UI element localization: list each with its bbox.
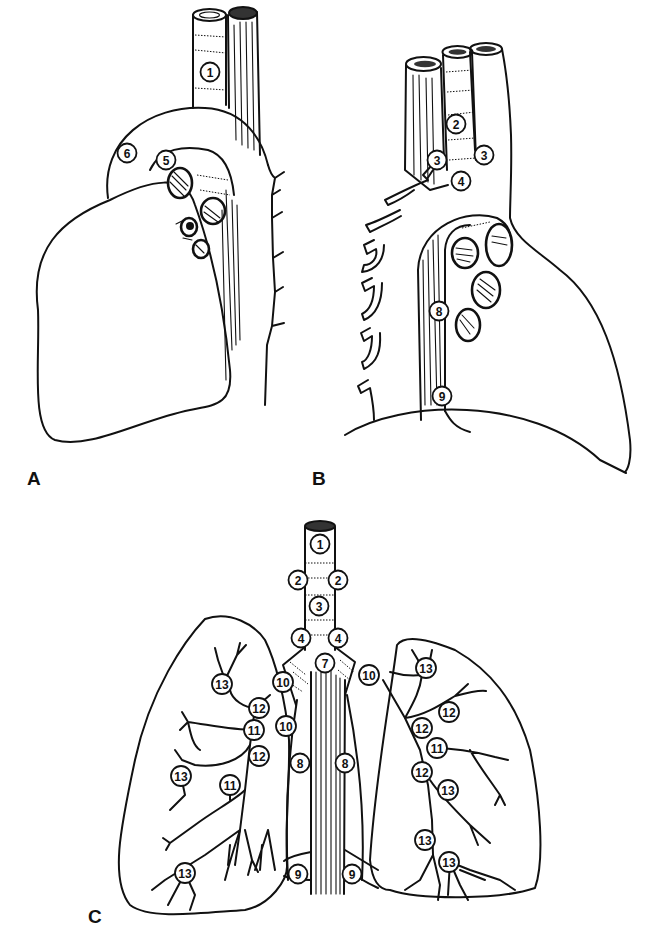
label-number: 13	[442, 856, 456, 870]
node-station-label-c-13: 13	[438, 780, 458, 800]
label-number: 13	[418, 834, 432, 848]
panel-b-drawing	[345, 43, 630, 473]
label-number: 3	[316, 600, 323, 614]
label-number: 6	[124, 147, 131, 161]
node-station-label-c-13: 13	[212, 674, 232, 694]
node-station-label-c-13: 13	[439, 852, 459, 872]
label-number: 4	[458, 175, 465, 189]
label-number: 2	[453, 118, 460, 132]
node-station-label-c-12: 12	[412, 762, 432, 782]
label-number: 9	[439, 390, 446, 404]
label-number: 7	[322, 657, 329, 671]
label-number: 2	[295, 574, 302, 588]
node-station-label-c-12: 12	[249, 746, 269, 766]
label-number: 12	[252, 750, 266, 764]
node-station-label-a-6: 6	[118, 144, 137, 163]
label-number: 8	[297, 757, 304, 771]
node-station-label-c-3: 3	[310, 597, 329, 616]
node-station-label-c-13: 13	[415, 830, 435, 850]
node-station-label-b-3: 3	[428, 151, 447, 170]
node-station-label-b-8: 8	[430, 302, 449, 321]
label-number: 13	[441, 784, 455, 798]
label-number: 10	[276, 676, 290, 690]
node-station-label-c-13: 13	[416, 658, 436, 678]
node-station-label-c-9: 9	[343, 865, 362, 884]
label-number: 9	[349, 868, 356, 882]
label-number: 8	[436, 305, 443, 319]
node-station-label-c-12: 12	[249, 698, 269, 718]
node-station-label-c-2: 2	[329, 571, 348, 590]
node-station-label-b-2: 2	[447, 115, 466, 134]
node-station-label-b-4: 4	[452, 172, 471, 191]
label-number: 12	[415, 722, 429, 736]
label-number: 13	[178, 867, 192, 881]
node-station-label-c-1: 1	[311, 535, 330, 554]
label-number: 3	[481, 149, 488, 163]
label-number: 4	[298, 632, 305, 646]
node-station-label-c-13: 13	[171, 766, 191, 786]
label-number: 11	[224, 779, 237, 793]
node-station-label-c-11: 11	[427, 738, 447, 758]
node-station-label-c-8: 8	[336, 754, 355, 773]
panel-letter-c: C	[88, 906, 102, 928]
node-station-label-c-10: 10	[359, 665, 379, 685]
label-number: 12	[252, 702, 266, 716]
node-station-label-c-11: 11	[220, 775, 240, 795]
node-station-label-c-12: 12	[412, 718, 432, 738]
node-station-label-c-2: 2	[289, 571, 308, 590]
label-number: 1	[317, 538, 324, 552]
node-station-label-c-11: 11	[244, 720, 264, 740]
panel-letter-a: A	[27, 468, 41, 490]
node-station-label-c-8: 8	[291, 754, 310, 773]
label-number: 12	[415, 766, 429, 780]
label-number: 9	[295, 868, 302, 882]
node-station-label-a-1: 1	[201, 63, 220, 82]
label-number: 12	[442, 706, 456, 720]
label-number: 10	[279, 720, 293, 734]
label-number: 3	[434, 154, 441, 168]
label-number: 1	[207, 66, 214, 80]
node-station-label-c-12: 12	[439, 702, 459, 722]
node-station-label-c-13: 13	[175, 863, 195, 883]
label-number: 13	[174, 770, 188, 784]
panel-a-drawing	[37, 7, 284, 442]
label-number: 11	[248, 724, 261, 738]
node-station-label-b-9: 9	[433, 387, 452, 406]
panel-letter-b: B	[312, 468, 326, 490]
node-station-label-b-3: 3	[475, 146, 494, 165]
label-number: 5	[163, 154, 170, 168]
node-station-label-c-9: 9	[289, 865, 308, 884]
label-number: 8	[342, 757, 349, 771]
label-number: 4	[335, 632, 342, 646]
label-number: 13	[419, 662, 433, 676]
label-number: 11	[431, 742, 444, 756]
node-station-label-c-4: 4	[292, 629, 311, 648]
node-station-label-c-4: 4	[329, 629, 348, 648]
lymph-node-station-diagram: 1652334891223447101013121110128813111312…	[0, 0, 652, 949]
label-number: 2	[335, 574, 342, 588]
node-station-label-c-7: 7	[316, 654, 335, 673]
node-station-label-c-10: 10	[276, 716, 296, 736]
label-number: 13	[215, 678, 229, 692]
label-number: 10	[362, 669, 376, 683]
node-station-label-a-5: 5	[157, 151, 176, 170]
node-station-label-c-10: 10	[273, 672, 293, 692]
